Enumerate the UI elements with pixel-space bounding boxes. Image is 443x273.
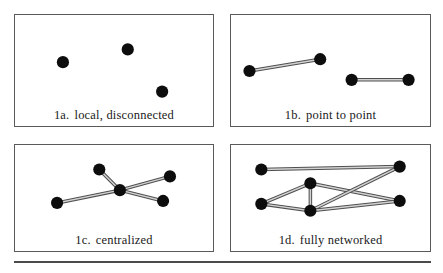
node-c-right-upper	[164, 170, 176, 182]
panel-1d-caption: 1d.fully networked	[231, 233, 430, 248]
edge-1d-2	[261, 183, 310, 204]
node-d-top-left	[255, 163, 267, 175]
panel-1d-caption-text: fully networked	[300, 233, 383, 247]
edge-1b-1	[249, 59, 320, 71]
panel-1a-tag: 1a.	[54, 108, 70, 122]
node-d-top-right	[394, 161, 406, 173]
node-d-bottom-left	[255, 198, 267, 210]
node-a1	[57, 56, 69, 68]
panel-1d-tag: 1d.	[279, 233, 295, 247]
panel-1b-tag: 1b.	[285, 108, 301, 122]
panel-1b: 1b.point to point	[230, 14, 431, 127]
panel-1a-caption-text: local, disconnected	[74, 108, 174, 122]
figure-container: 1a.local, disconnected1b.point to point1…	[0, 0, 443, 273]
bottom-divider-rule	[14, 261, 431, 263]
node-b3	[346, 74, 358, 86]
panel-1d: 1d.fully networked	[230, 144, 431, 252]
edge-1c-4	[120, 190, 163, 201]
panel-1c: 1c.centralized	[14, 144, 214, 252]
panel-1c-caption: 1c.centralized	[15, 233, 213, 248]
node-b4	[403, 74, 415, 86]
node-c-left	[51, 197, 63, 209]
panel-1a: 1a.local, disconnected	[14, 14, 214, 127]
panel-1a-caption: 1a.local, disconnected	[15, 108, 213, 123]
panel-1c-tag: 1c.	[75, 233, 91, 247]
edge-1c-3	[120, 176, 170, 190]
node-c-top	[93, 163, 105, 175]
panel-1b-caption-text: point to point	[306, 108, 376, 122]
panel-1c-caption-text: centralized	[96, 233, 153, 247]
edge-1d-3	[261, 204, 310, 211]
node-c-center	[114, 184, 126, 196]
node-c-right-lower	[157, 195, 169, 207]
node-d-center-lower	[304, 205, 316, 217]
node-d-bottom-right	[394, 195, 406, 207]
edge-1c-1	[57, 190, 120, 203]
node-a2	[122, 43, 134, 55]
edge-1d-5	[310, 183, 399, 201]
panel-1b-caption: 1b.point to point	[231, 108, 430, 123]
edge-1d-1	[261, 167, 399, 170]
node-a3	[156, 86, 168, 98]
node-b2	[314, 53, 326, 65]
node-d-center-upper	[304, 177, 316, 189]
node-b1	[243, 65, 255, 77]
